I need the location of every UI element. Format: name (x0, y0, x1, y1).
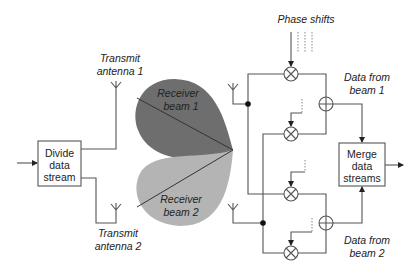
rx-beam2-label-1: Receiver (160, 193, 202, 205)
rx2-feed (233, 210, 263, 223)
rx1-feed (233, 90, 248, 104)
data-beam1-label-2: beam 1 (349, 84, 384, 96)
phase-shifts-label: Phase shifts (277, 13, 335, 25)
beam1-data-line (333, 104, 362, 142)
phase-arrow (291, 113, 302, 126)
phase-arrow (291, 232, 312, 245)
beam2-data-line (333, 187, 362, 223)
tx2-label-1: Transmit (98, 227, 139, 239)
data-beam2-label-2: beam 2 (349, 247, 384, 259)
tx2-label-2: antenna 2 (95, 240, 142, 252)
junction-node (260, 220, 266, 226)
data-beam2-label-1: Data from (344, 234, 390, 246)
mult2-out (298, 111, 326, 134)
mult4-out (298, 230, 326, 253)
multiplier-icon (284, 246, 298, 260)
antenna-icon (111, 81, 121, 88)
tx1-label-2: antenna 1 (97, 65, 144, 77)
phase-arrow (291, 172, 305, 186)
multiplier-icon (284, 187, 298, 201)
merge-label-3: streams (343, 172, 380, 184)
antenna-icon (228, 203, 238, 210)
divide-label-1: Divide (45, 147, 74, 159)
smart-antenna-diagram: Receiver beam 1 Receiver beam 2 Divide d… (0, 0, 420, 272)
data-beam1-label-1: Data from (344, 71, 390, 83)
divide-label-2: data (49, 159, 70, 171)
multiplier-icon (284, 127, 298, 141)
rx-beam1-label-1: Receiver (157, 87, 199, 99)
antenna-icon (111, 203, 121, 210)
tx1-label-1: Transmit (100, 52, 141, 64)
merge-label-2: data (352, 160, 373, 172)
rx-beam2-label-2: beam 2 (163, 206, 198, 218)
multiplier-icon (284, 67, 298, 81)
mult3-out (298, 194, 326, 216)
divide-label-3: stream (43, 171, 75, 183)
adder-icon (319, 97, 333, 111)
tx1-feed (81, 88, 116, 149)
merge-label-1: Merge (347, 148, 377, 160)
adder-icon (319, 216, 333, 230)
junction-node (245, 101, 251, 107)
antenna-icon (228, 83, 238, 90)
tx2-feed (81, 178, 116, 223)
mult1-out (298, 74, 326, 97)
rx-beam1-label-2: beam 1 (163, 100, 198, 112)
